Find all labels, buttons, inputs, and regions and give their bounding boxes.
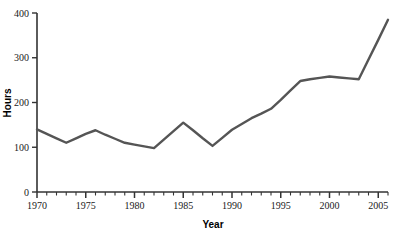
- x-tick-label: 1995: [271, 200, 291, 211]
- y-tick-label: 200: [14, 97, 29, 108]
- y-axis-tick-labels: 0100200300400: [14, 8, 29, 198]
- chart-figure: 0100200300400 Hours 19701975198019851990…: [0, 0, 394, 231]
- y-tick-label: 100: [14, 142, 29, 153]
- y-tick-label: 300: [14, 52, 29, 63]
- y-axis-title: Hours: [2, 88, 13, 117]
- x-tick-label: 2000: [320, 200, 340, 211]
- y-tick-label: 400: [14, 8, 29, 19]
- x-tick-label: 1985: [173, 200, 193, 211]
- x-axis-tick-labels: 19701975198019851990199520002005: [27, 200, 388, 211]
- x-tick-label: 1970: [27, 200, 47, 211]
- x-tick-label: 2005: [368, 200, 388, 211]
- data-series-line: [37, 20, 388, 148]
- x-axis-group: 19701975198019851990199520002005 Year: [27, 192, 388, 230]
- x-tick-label: 1975: [76, 200, 96, 211]
- x-axis-title: Year: [202, 219, 223, 230]
- x-tick-label: 1980: [125, 200, 145, 211]
- x-tick-label: 1990: [222, 200, 242, 211]
- y-tick-label: 0: [24, 187, 29, 198]
- line-chart-svg: 0100200300400 Hours 19701975198019851990…: [0, 0, 394, 231]
- y-axis-group: 0100200300400 Hours: [2, 8, 37, 198]
- x-axis-major-ticks: [37, 192, 378, 198]
